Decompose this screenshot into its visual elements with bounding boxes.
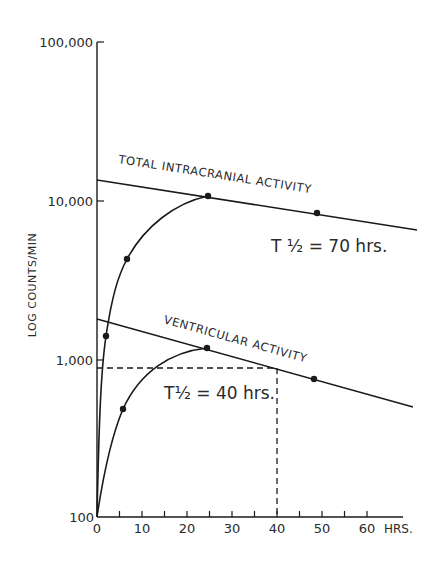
x-tick-label-0: 0 xyxy=(93,521,101,536)
x-tick-label-60: 60 xyxy=(359,521,376,536)
marker-total-7h xyxy=(124,256,130,262)
marker-ventricular-24h xyxy=(204,345,210,351)
total-intracranial-label: TOTAL INTRACRANIAL ACTIVITY xyxy=(117,152,313,196)
y-tick-label-100000: 100,000 xyxy=(39,35,93,50)
y-tick-label-10000: 10,000 xyxy=(48,194,94,209)
total-intracranial-uptake-curve xyxy=(97,196,208,517)
x-tick-label-40: 40 xyxy=(269,521,286,536)
x-tick-label-50: 50 xyxy=(314,521,331,536)
y-ticks xyxy=(97,42,104,360)
y-tick-label-100: 100 xyxy=(69,510,94,525)
ventricular-uptake-curve xyxy=(97,348,207,517)
half-life-total-annotation: T ½ = 70 hrs. xyxy=(270,236,387,256)
data-markers xyxy=(103,193,320,412)
half-life-ventricular-annotation: T½ = 40 hrs. xyxy=(163,383,275,403)
marker-ventricular-6h xyxy=(120,406,126,412)
marker-total-25h xyxy=(205,193,211,199)
x-ticks xyxy=(120,511,368,517)
y-axis-title: LOG COUNTS/MIN xyxy=(26,233,39,337)
x-tick-label-20: 20 xyxy=(179,521,196,536)
x-axis-unit: HRS. xyxy=(384,522,413,536)
x-tick-label-10: 10 xyxy=(134,521,151,536)
marker-ventricular-48h xyxy=(311,376,317,382)
marker-total-49h xyxy=(314,210,320,216)
x-tick-label-30: 30 xyxy=(224,521,241,536)
marker-total-2h xyxy=(103,333,109,339)
decay-chart: 100,000 10,000 1,000 100 LOG COUNTS/MIN … xyxy=(0,0,443,572)
y-tick-label-1000: 1,000 xyxy=(56,353,93,368)
